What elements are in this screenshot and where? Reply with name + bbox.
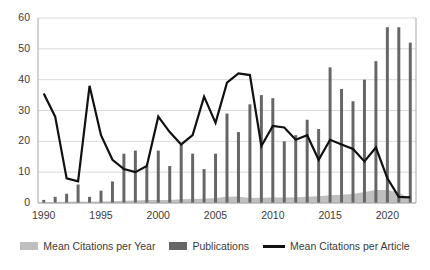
legend-item-publications[interactable]: Publications bbox=[169, 240, 249, 252]
y-tick-label: 20 bbox=[8, 134, 30, 146]
citations-chart: 6050403020100 19901995200020052010201520… bbox=[0, 0, 430, 270]
y-tick-label: 60 bbox=[8, 11, 30, 23]
legend-item-mean-citations-per-article[interactable]: Mean Citations per Article bbox=[263, 240, 410, 252]
y-tick-label: 50 bbox=[8, 42, 30, 54]
publications-bars bbox=[42, 27, 412, 203]
x-tick-label: 1990 bbox=[24, 209, 64, 221]
x-tick-label: 2000 bbox=[138, 209, 178, 221]
y-tick-label: 30 bbox=[8, 104, 30, 116]
line-swatch-icon bbox=[263, 245, 285, 248]
x-tick-label: 2005 bbox=[196, 209, 236, 221]
x-tick-label: 2020 bbox=[367, 209, 407, 221]
legend-item-mean-citations-per-year[interactable]: Mean Citations per Year bbox=[20, 240, 155, 252]
chart-legend: Mean Citations per Year Publications Mea… bbox=[0, 240, 430, 252]
chart-plot-area bbox=[0, 0, 430, 270]
legend-label-mean-citations-per-article: Mean Citations per Article bbox=[290, 240, 410, 252]
x-tick-label: 1995 bbox=[81, 209, 121, 221]
y-tick-label: 40 bbox=[8, 73, 30, 85]
legend-label-mean-citations-per-year: Mean Citations per Year bbox=[43, 240, 155, 252]
y-tick-label: 10 bbox=[8, 165, 30, 177]
x-tick-label: 2010 bbox=[253, 209, 293, 221]
area-swatch-icon bbox=[20, 242, 38, 250]
x-tick-label: 2015 bbox=[310, 209, 350, 221]
legend-label-publications: Publications bbox=[192, 240, 249, 252]
y-tick-label: 0 bbox=[8, 196, 30, 208]
bar-swatch-icon bbox=[169, 242, 187, 250]
